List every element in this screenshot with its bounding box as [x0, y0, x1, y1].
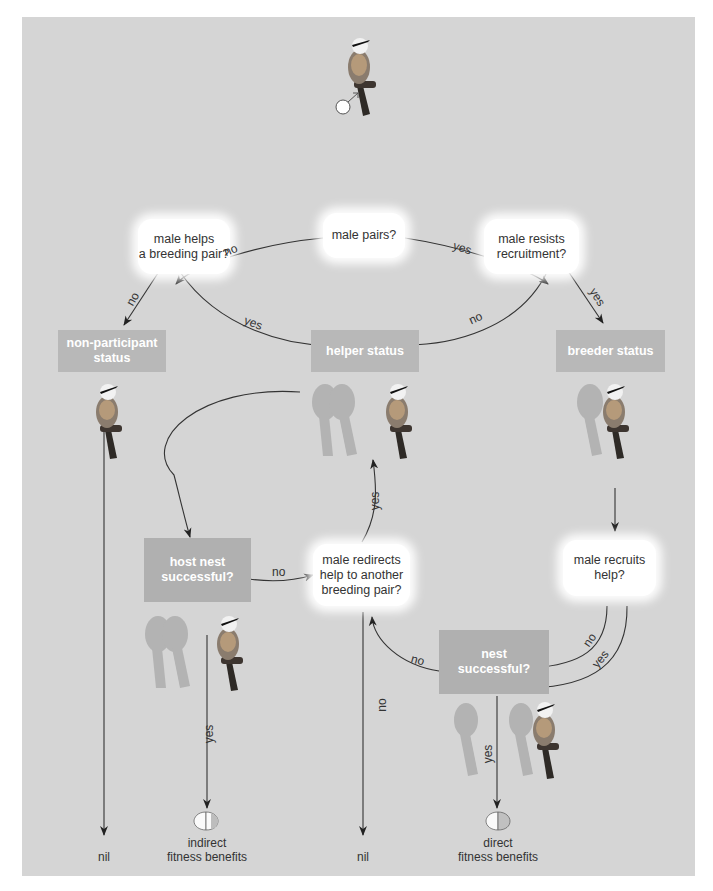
decision-male-helps: male helps a breeding pair?: [138, 219, 230, 274]
decision-text: help?: [594, 568, 625, 583]
decision-text: help to another: [320, 568, 403, 583]
status-text: helper status: [326, 344, 404, 359]
status-text: status: [94, 351, 131, 366]
decision-male-pairs: male pairs?: [323, 213, 405, 258]
bird-icon: [85, 380, 130, 460]
decision-text: breeding pair?: [322, 583, 402, 598]
decision-male-redirects: male redirects help to another breeding …: [313, 544, 410, 606]
edge-label-redirect-yes: yes: [368, 492, 382, 511]
decision-text: male redirects: [322, 553, 401, 568]
outcome-text: nil: [357, 850, 369, 864]
bird-icon: [206, 612, 251, 692]
status-text: breeder status: [567, 344, 653, 359]
bird-icon: [375, 380, 420, 460]
decision-text: successful?: [161, 570, 233, 585]
outcome-text: nil: [98, 850, 110, 864]
edge-label-host-no: no: [272, 565, 285, 579]
status-helper: helper status: [311, 330, 419, 372]
decision-text: successful?: [458, 662, 530, 677]
shadow-bird-icon: [448, 700, 488, 780]
edge-label-host-yes: yes: [202, 725, 216, 744]
egg-direct-icon: [484, 810, 512, 832]
decision-text: nest: [481, 647, 507, 662]
status-text: non-participant: [67, 336, 158, 351]
outcome-nil-center: nil: [349, 850, 377, 864]
outcome-text: fitness benefits: [155, 850, 259, 864]
edge-label-nest-yes: yes: [481, 745, 495, 764]
decision-text: male pairs?: [332, 228, 397, 243]
decision-text: recruitment?: [497, 247, 566, 262]
decision-text: host nest: [170, 555, 226, 570]
outcome-text: indirect: [155, 836, 259, 850]
decision-text: male recruits: [574, 553, 646, 568]
outcome-text: fitness benefits: [446, 850, 550, 864]
outcome-direct-fitness: direct fitness benefits: [446, 836, 550, 864]
status-non-participant: non-participant status: [58, 330, 166, 372]
decision-male-resists: male resists recruitment?: [484, 219, 579, 274]
decision-text: male resists: [498, 232, 565, 247]
outcome-nil-left: nil: [90, 850, 118, 864]
decision-male-recruits: male recruits help?: [563, 540, 656, 596]
edge-label-redirect-no: no: [375, 698, 389, 711]
male-symbol-icon: [334, 90, 364, 116]
egg-indirect-icon: [192, 810, 220, 832]
shadow-birds-icon: [138, 612, 208, 692]
outcome-text: direct: [446, 836, 550, 850]
decision-text: a breeding pair?: [139, 247, 229, 262]
decision-host-nest-successful: host nest successful?: [144, 538, 251, 602]
decision-nest-successful: nest successful?: [439, 630, 549, 694]
bird-icon: [522, 698, 567, 780]
outcome-indirect-fitness: indirect fitness benefits: [155, 836, 259, 864]
shadow-birds-icon: [305, 380, 375, 460]
decision-text: male helps: [154, 232, 214, 247]
status-breeder: breeder status: [556, 330, 665, 372]
bird-icon: [592, 380, 637, 460]
